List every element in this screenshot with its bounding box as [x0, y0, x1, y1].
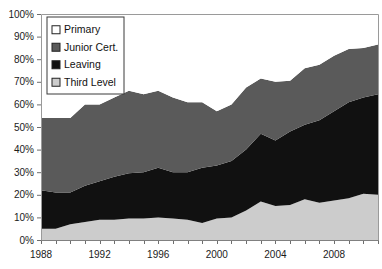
legend-swatch-junior-cert: [52, 43, 60, 51]
y-axis-tick-label: 70%: [14, 76, 34, 87]
x-axis-tick-label: 2004: [264, 249, 287, 260]
x-axis-tick-label: 1996: [147, 249, 170, 260]
y-axis-tick-label: 100%: [8, 9, 34, 20]
legend-label-third-level: Third Level: [64, 76, 116, 88]
y-axis-tick-label: 50%: [14, 122, 34, 133]
y-axis-tick-label: 90%: [14, 31, 34, 42]
y-axis-tick-label: 80%: [14, 54, 34, 65]
y-axis-tick-label: 20%: [14, 189, 34, 200]
x-axis-tick-label: 2000: [206, 249, 229, 260]
chart-canvas: 0%10%20%30%40%50%60%70%80%90%100% 198819…: [0, 0, 382, 269]
y-axis-tick-label: 30%: [14, 167, 34, 178]
y-axis-labels: 0%10%20%30%40%50%60%70%80%90%100%: [8, 9, 34, 246]
legend-swatch-primary: [52, 26, 60, 34]
y-axis-tick-label: 10%: [14, 212, 34, 223]
stacked-area-chart: 0%10%20%30%40%50%60%70%80%90%100% 198819…: [0, 0, 382, 269]
legend-swatch-leaving: [52, 61, 60, 69]
x-axis-tick-label: 1988: [30, 249, 53, 260]
y-axis-tick-label: 0%: [20, 235, 35, 246]
y-axis-tick-label: 40%: [14, 144, 34, 155]
legend-label-primary: Primary: [64, 23, 101, 35]
x-axis-tick-label: 2008: [323, 249, 346, 260]
chart-legend: PrimaryJunior Cert.LeavingThird Level: [47, 17, 124, 94]
y-axis-tick-label: 60%: [14, 99, 34, 110]
legend-label-leaving: Leaving: [64, 58, 101, 70]
legend-label-junior-cert: Junior Cert.: [64, 41, 118, 53]
x-axis-labels: 198819921996200020042008: [30, 249, 346, 260]
legend-swatch-third-level: [52, 78, 60, 86]
x-axis-tick-label: 1992: [88, 249, 111, 260]
